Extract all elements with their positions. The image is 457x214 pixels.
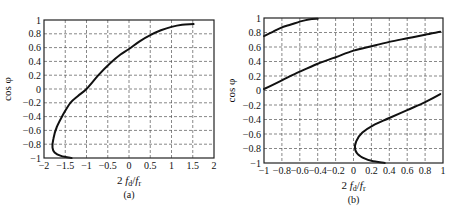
chart-a-x-axis-label: 2 fd/fr <box>117 174 141 188</box>
chart-b-x-tick-labels: −1−0.8−0.6−0.4−0.200.20.40.60.81 <box>259 165 446 176</box>
curve-curve <box>52 24 193 158</box>
x-tick-label: −0.5 <box>99 160 117 171</box>
y-tick-label: −0.6 <box>23 125 41 136</box>
y-tick-label: 0.6 <box>29 42 42 53</box>
chart-a-x-tick-labels: −2−1.5−1−0.500.511.52 <box>39 160 217 171</box>
curve-upper-branch <box>264 19 318 36</box>
x-tick-label: 0 <box>351 165 356 176</box>
chart-b-curves <box>264 19 440 163</box>
figure-canvas: −2−1.5−1−0.500.511.52 −1−0.8−0.6−0.4−0.2… <box>0 0 457 214</box>
chart-b-x-axis-label: 2 fd/fr <box>341 179 365 193</box>
y-tick-label: −0.6 <box>243 129 261 140</box>
y-tick-label: 1 <box>36 15 41 26</box>
y-tick-label: −0.2 <box>23 97 41 108</box>
x-tick-label: 0.2 <box>365 165 378 176</box>
chart-a: −2−1.5−1−0.500.511.52 −1−0.8−0.6−0.4−0.2… <box>1 15 217 202</box>
x-tick-label: 0.6 <box>401 165 414 176</box>
chart-b-y-tick-labels: −1−0.8−0.6−0.4−0.200.20.40.60.81 <box>243 13 261 169</box>
y-tick-label: −0.4 <box>243 114 261 125</box>
chart-a-y-tick-labels: −1−0.8−0.6−0.4−0.200.20.40.60.81 <box>23 15 41 164</box>
x-tick-label: 1 <box>441 165 446 176</box>
y-tick-label: 0.2 <box>249 71 262 82</box>
chart-b-y-axis-label: cos φ <box>225 79 237 103</box>
x-tick-label: 1 <box>169 160 174 171</box>
chart-b-grid <box>264 18 443 163</box>
x-tick-label: −1 <box>81 160 92 171</box>
y-tick-label: 0.6 <box>249 42 262 53</box>
y-tick-label: 1 <box>256 13 261 24</box>
y-tick-label: −0.8 <box>243 143 261 154</box>
curve-lower-branch <box>355 94 440 163</box>
chart-a-grid <box>44 20 214 158</box>
x-tick-label: −0.4 <box>309 165 327 176</box>
y-tick-label: 0 <box>256 85 261 96</box>
x-tick-label: −0.6 <box>291 165 309 176</box>
x-tick-label: 0.8 <box>419 165 432 176</box>
x-tick-label: 0.5 <box>144 160 157 171</box>
curve-middle-branch <box>264 32 440 89</box>
chart-a-caption: (a) <box>123 189 134 201</box>
y-tick-label: −0.4 <box>23 111 41 122</box>
y-tick-label: 0.8 <box>29 28 42 39</box>
x-tick-label: −0.8 <box>273 165 291 176</box>
x-tick-label: 0.4 <box>383 165 396 176</box>
chart-b: −1−0.8−0.6−0.4−0.200.20.40.60.81 −1−0.8−… <box>225 13 446 207</box>
y-tick-label: 0.4 <box>29 56 42 67</box>
y-tick-label: 0 <box>36 84 41 95</box>
x-tick-label: −0.2 <box>327 165 345 176</box>
y-tick-label: −0.2 <box>243 100 261 111</box>
x-tick-label: 1.5 <box>187 160 200 171</box>
chart-b-caption: (b) <box>348 194 360 206</box>
y-tick-label: 0.2 <box>29 70 42 81</box>
chart-a-curves <box>52 24 193 158</box>
x-tick-label: 2 <box>212 160 217 171</box>
x-tick-label: 0 <box>127 160 132 171</box>
y-tick-label: 0.4 <box>249 56 262 67</box>
chart-a-y-axis-label: cos φ <box>1 77 13 101</box>
y-tick-label: 0.8 <box>249 27 262 38</box>
y-tick-label: −1 <box>250 158 261 169</box>
y-tick-label: −0.8 <box>23 139 41 150</box>
x-tick-label: −1.5 <box>56 160 74 171</box>
y-tick-label: −1 <box>30 153 41 164</box>
